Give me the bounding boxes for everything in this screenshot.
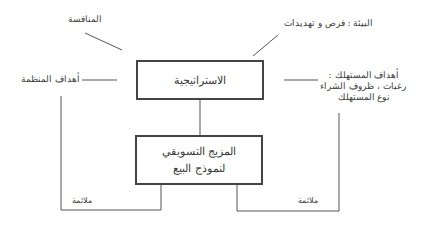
connector-lines <box>0 0 430 226</box>
fit-label-left: ملائمة <box>72 195 92 206</box>
consumer-goals-label: أهداف المستهلك : رغبات ، ظروف الشراء نوع… <box>322 70 406 103</box>
strategy-label: الاستراتيجية <box>174 74 226 87</box>
fit-label-right: ملائمة <box>298 195 318 206</box>
consumer-goals-detail: رغبات ، ظروف الشراء <box>322 81 406 92</box>
marketing-mix-box: المزيج التسويقي لنموذج البيع <box>135 135 263 185</box>
strategy-box: الاستراتيجية <box>136 60 264 100</box>
marketing-mix-line1: المزيج التسويقي <box>162 143 237 160</box>
competition-connector <box>85 33 122 50</box>
environment-label: البيئة : فرص و تهديدات <box>284 18 373 29</box>
marketing-mix-line2: لنموذج البيع <box>173 160 225 177</box>
org-goals-label: أهداف المنظمة <box>21 74 80 85</box>
consumer-goals-title: أهداف المستهلك : <box>322 70 406 81</box>
environment-connector <box>253 35 278 56</box>
competition-label: المنافسة <box>68 14 102 25</box>
consumer-type: نوع المستهلك <box>322 92 406 103</box>
